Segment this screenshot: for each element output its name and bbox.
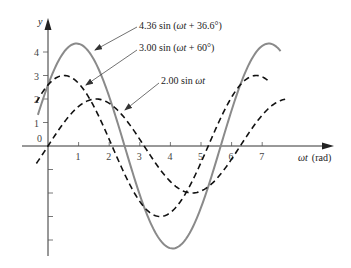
- y-tick-label: 3: [34, 71, 39, 82]
- x-tick-label: 4: [167, 151, 172, 162]
- x-tick-label: 1: [76, 151, 81, 162]
- y-tick-label: 4: [34, 47, 39, 58]
- annotation-arrow: [86, 50, 137, 85]
- annotation-label: 4.36 sin (ωt + 36.6°): [139, 20, 222, 32]
- y-axis: [45, 18, 52, 256]
- x-tick-label: 7: [259, 151, 264, 162]
- sine-waveform-chart: 12345671234 4.36 sin (ωt + 36.6°)3.00 si…: [0, 0, 351, 268]
- origin-label: 0: [37, 133, 42, 144]
- x-axis-label: ωt(rad): [298, 152, 331, 164]
- annotation-label: 3.00 sin (ωt + 60°): [139, 42, 214, 54]
- annotation-label: 2.00 sin ωt: [161, 75, 205, 86]
- x-tick-label: 2: [106, 151, 111, 162]
- x-tick-label: 3: [137, 151, 142, 162]
- annotation-arrow: [125, 83, 159, 110]
- chart-container: 12345671234 4.36 sin (ωt + 36.6°)3.00 si…: [0, 0, 351, 268]
- x-axis: [22, 143, 334, 150]
- x-axis-arrow-icon: [322, 143, 334, 150]
- y-axis-arrow-icon: [45, 18, 52, 30]
- y-tick-label: 1: [34, 118, 39, 129]
- y-axis-label: y: [37, 16, 43, 27]
- annotations: 4.36 sin (ωt + 36.6°)3.00 sin (ωt + 60°)…: [86, 20, 222, 110]
- annotation-arrow: [95, 27, 137, 50]
- x-tick-label: 5: [198, 151, 203, 162]
